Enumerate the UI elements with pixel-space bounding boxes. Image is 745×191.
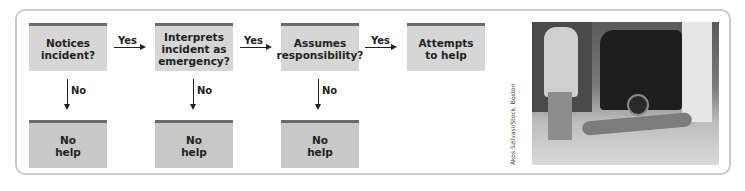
no-label-3: No — [322, 85, 337, 96]
street-photo — [532, 22, 719, 165]
photo-pedestrian-legs — [548, 92, 572, 140]
yes-arrow-2-icon — [240, 42, 272, 54]
no-label-1: No — [71, 85, 86, 96]
no-label-2: No — [197, 85, 212, 96]
photo-pedestrian — [544, 27, 578, 97]
outcome-no-help-3: No help — [281, 120, 359, 168]
step-assumes-responsibility: Assumes responsibility? — [281, 23, 359, 71]
outcome-no-help-1: No help — [29, 120, 107, 168]
yes-arrow-1-icon — [114, 42, 146, 54]
photo-pillar — [682, 22, 712, 122]
yes-arrow-3-icon — [365, 42, 397, 54]
photo-van-wheel — [627, 94, 649, 116]
step-interprets-emergency: Interprets incident as emergency? — [155, 23, 233, 71]
outcome-no-help-2: No help — [155, 120, 233, 168]
step-attempts-to-help: Attempts to help — [407, 23, 485, 71]
photo-credit: Akos Szilvasi/Stock, Boston — [509, 83, 516, 165]
step-notices-incident: Notices incident? — [29, 23, 107, 71]
